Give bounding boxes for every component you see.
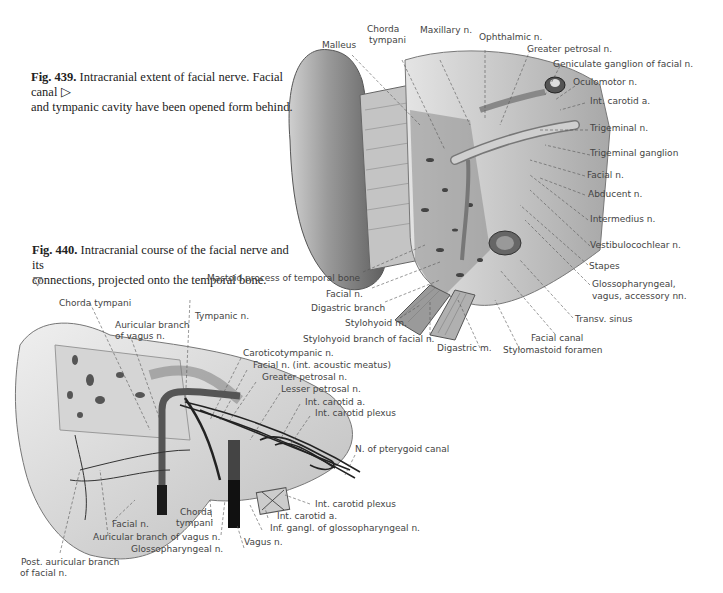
label-post-auricular-2: of facial n. xyxy=(20,568,67,579)
label-transv-sinus: Transv. sinus xyxy=(575,314,632,325)
label-abducent-n: Abducent n. xyxy=(588,189,642,200)
fig440-number: Fig. 440. xyxy=(32,243,77,257)
label-greater-petrosal-n-440: Greater petrosal n. xyxy=(262,372,347,383)
label-stylohyoid-m: Stylohyoid m. xyxy=(345,318,407,329)
label-geniculate-ganglion: Geniculate ganglion of facial n. xyxy=(553,59,693,70)
label-int-carotid-a-top: Int. carotid a. xyxy=(305,397,365,408)
label-int-carotid-plexus-top: Int. carotid plexus xyxy=(315,408,396,419)
label-greater-petrosal-n: Greater petrosal n. xyxy=(527,44,612,55)
atlas-page: Fig. 439. Intracranial extent of facial … xyxy=(0,0,723,593)
label-intermedius-n: Intermedius n. xyxy=(590,214,655,225)
label-facial-canal: Facial canal xyxy=(531,333,583,344)
label-auricular-vagus-1: Auricular branch xyxy=(115,320,190,331)
label-chorda-tympani-top: Chorda tympani xyxy=(59,298,131,309)
label-int-carotid-a-bottom: Int. carotid a. xyxy=(277,511,337,522)
label-stapes: Stapes xyxy=(589,261,620,272)
label-tympanic-n: Tympanic n. xyxy=(195,311,249,322)
label-chorda-tympani-1: Chorda xyxy=(367,24,399,35)
label-oculomotor-n: Oculomotor n. xyxy=(573,77,637,88)
label-inf-gangl-glossopharyngeal: Inf. gangl. of glossopharyngeal n. xyxy=(270,523,420,534)
label-chorda-2: tympani xyxy=(176,518,213,529)
label-stylomastoid-foramen: Stylomastoid foramen xyxy=(503,345,603,356)
label-digastric-branch: Digastric branch xyxy=(311,303,385,314)
label-chorda-tympani-2: tympani xyxy=(369,35,406,46)
label-ophthalmic-n: Ophthalmic n. xyxy=(479,32,542,43)
label-stylohyoid-branch: Stylohyoid branch of facial n. xyxy=(303,334,434,345)
label-int-carotid-plexus-bottom: Int. carotid plexus xyxy=(315,499,396,510)
label-n-pterygoid-canal: N. of pterygoid canal xyxy=(355,444,449,455)
fig439-caption-line2: and tympanic cavity have been opened for… xyxy=(31,100,293,114)
label-mastoid-process: Mastoid process of temporal bone xyxy=(207,273,360,284)
label-vestibulocochlear-n: Vestibulocochlear n. xyxy=(590,240,681,251)
label-lesser-petrosal-n: Lesser petrosal n. xyxy=(281,384,361,395)
label-maxillary-n: Maxillary n. xyxy=(420,25,472,36)
label-trigeminal-ganglion: Trigeminal ganglion xyxy=(590,148,678,159)
fig440-pointer-icon: ▽ xyxy=(33,274,42,288)
label-digastric-m: Digastric m. xyxy=(437,343,492,354)
label-glossopharyngeal-1: Glossopharyngeal, xyxy=(592,279,676,290)
label-trigeminal-n: Trigeminal n. xyxy=(590,123,648,134)
label-chorda-1: Chorda xyxy=(180,507,212,518)
label-post-auricular-1: Post. auricular branch xyxy=(21,557,120,568)
label-malleus: Malleus xyxy=(322,40,356,51)
label-facial-n-right: Facial n. xyxy=(587,170,624,181)
label-facial-n-left: Facial n. xyxy=(326,289,363,300)
label-facial-n-iam: Facial n. (int. acoustic meatus) xyxy=(253,360,391,371)
label-int-carotid-a: Int. carotid a. xyxy=(590,96,650,107)
fig439-number: Fig. 439. xyxy=(31,70,76,84)
label-vagus-n: Vagus n. xyxy=(244,537,283,548)
label-caroticotympanic-n: Caroticotympanic n. xyxy=(243,348,334,359)
fig439-pointer: ▷ xyxy=(61,85,71,99)
label-auricular-vagus-2: of vagus n. xyxy=(115,331,165,342)
label-glossopharyngeal-n: Glossopharyngeal n. xyxy=(131,544,223,555)
label-glossopharyngeal-2: vagus, accessory nn. xyxy=(592,291,687,302)
label-facial-n-440: Facial n. xyxy=(112,519,149,530)
fig439-caption: Fig. 439. Intracranial extent of facial … xyxy=(31,70,311,115)
label-auricular-vagus-bottom: Auricular branch of vagus n. xyxy=(93,532,220,543)
